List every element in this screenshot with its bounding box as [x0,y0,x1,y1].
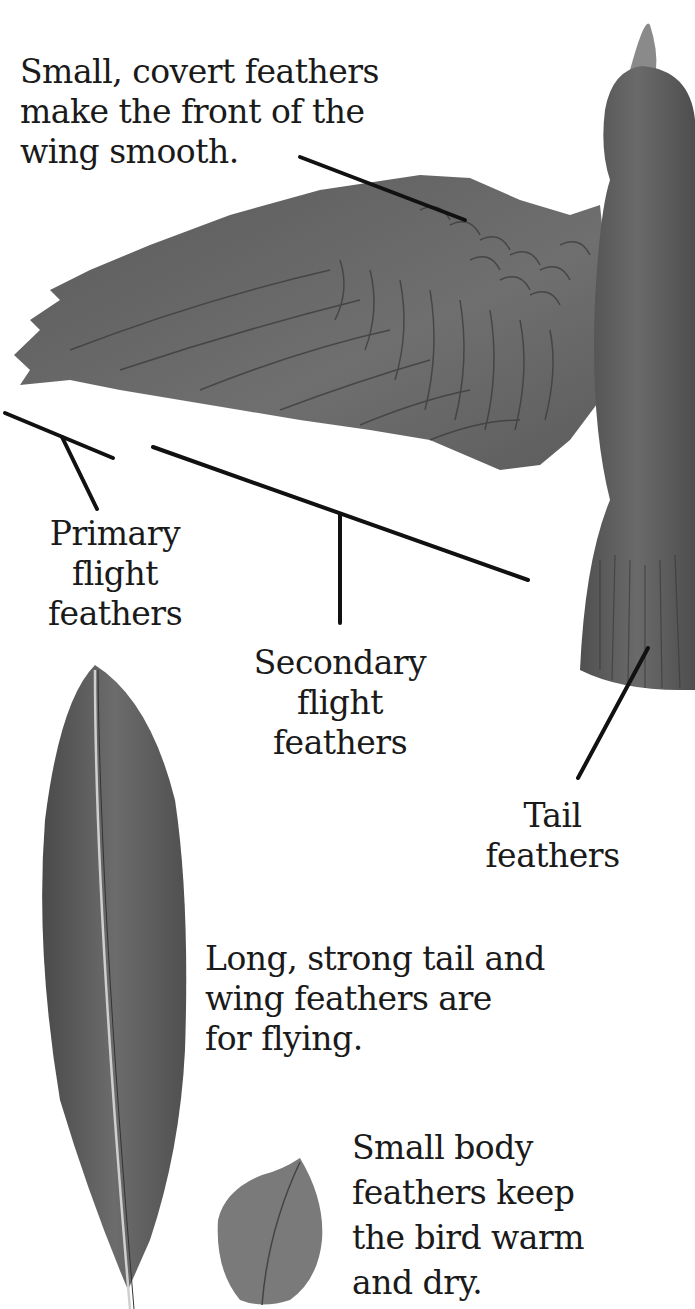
beak [630,23,656,70]
tail-feathers-label: Tail feathers [470,796,635,876]
body-feathers-caption: Small body feathers keep the bird warm a… [352,1125,584,1305]
primary-feathers-label: Primary flight feathers [30,514,200,634]
bird-body [580,23,695,690]
long-feather [42,665,186,1309]
flight-feathers-caption: Long, strong tail and wing feathers are … [205,939,545,1059]
body-feather [218,1158,323,1305]
covert-feathers-label: Small, covert feathers make the front of… [20,52,379,172]
wing [14,175,610,470]
secondary-feathers-label: Secondary flight feathers [235,643,445,763]
